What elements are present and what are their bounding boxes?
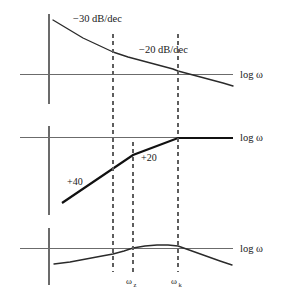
bode-figure-canvas: −30 dB/dec −20 dB/dec log ω +40 +20 log …: [0, 0, 285, 299]
slope-label-minus30: −30 dB/dec: [73, 13, 122, 24]
panel-bottom-axis-label: log ω: [240, 243, 263, 254]
tick-label-omega-k: ω k: [171, 276, 182, 288]
tick-label-omega-z: ω z: [126, 276, 137, 288]
panel-bottom: log ω: [20, 228, 263, 285]
omega-k-subscript: k: [178, 281, 182, 288]
panel-middle-asymptote-curve: [62, 138, 233, 203]
panel-middle-axis-label: log ω: [240, 132, 263, 143]
panel-top: −30 dB/dec −20 dB/dec log ω: [20, 13, 263, 104]
omega-z-subscript: z: [134, 281, 137, 288]
omega-tick-labels: ω z ω k: [126, 276, 182, 288]
panel-middle: +40 +20 log ω: [20, 126, 263, 215]
slope-label-minus20: −20 dB/dec: [139, 44, 188, 55]
gain-label-plus20: +20: [141, 152, 157, 163]
omega-k-base: ω: [171, 276, 177, 286]
omega-z-base: ω: [126, 276, 132, 286]
panel-top-axis-label: log ω: [240, 69, 263, 80]
bode-figure: −30 dB/dec −20 dB/dec log ω +40 +20 log …: [0, 0, 285, 299]
gain-label-plus40: +40: [67, 176, 83, 187]
